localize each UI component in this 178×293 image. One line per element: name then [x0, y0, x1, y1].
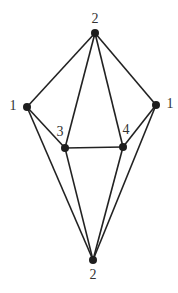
edge-n4-bottom	[93, 147, 123, 260]
node-label-right: 1	[167, 96, 174, 111]
graph-diagram: 211342	[0, 0, 178, 293]
node-top	[91, 29, 99, 37]
node-right	[152, 101, 160, 109]
node-left	[23, 103, 31, 111]
node-n3	[61, 144, 69, 152]
node-label-n4: 4	[123, 122, 130, 137]
node-bottom	[89, 256, 97, 264]
edge-n3-n4	[65, 147, 123, 148]
edges-group	[27, 33, 156, 260]
node-label-n3: 3	[57, 124, 64, 139]
node-label-left: 1	[10, 98, 17, 113]
labels-group: 211342	[10, 11, 174, 282]
node-n4	[119, 143, 127, 151]
node-label-top: 2	[92, 11, 99, 26]
node-label-bottom: 2	[90, 267, 97, 282]
